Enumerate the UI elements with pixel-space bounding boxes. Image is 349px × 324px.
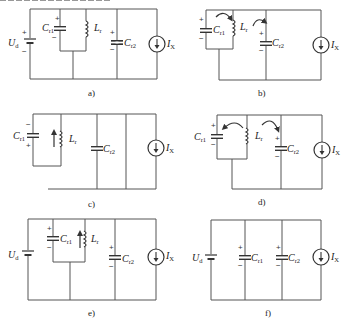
svg-text:+: + bbox=[109, 243, 114, 252]
svg-text:+: + bbox=[47, 224, 52, 233]
svg-text:−: − bbox=[259, 46, 264, 55]
svg-text:+: + bbox=[276, 243, 281, 252]
current-arrow-icon bbox=[262, 121, 278, 130]
panel-e: Ud + − Cr1 Lr + − Cr2 IX e) bbox=[8, 219, 174, 318]
caption-a: a) bbox=[88, 88, 95, 98]
label-ix: IX bbox=[166, 38, 175, 50]
panel-a: + − Ud + − Cr1 Lr + − Cr2 IX a) bbox=[8, 9, 175, 98]
svg-text:−: − bbox=[52, 33, 57, 42]
label-lr: Lr bbox=[90, 233, 100, 245]
current-arrow-icon bbox=[224, 123, 243, 128]
svg-text:−: − bbox=[275, 152, 280, 161]
label-ix: IX bbox=[330, 251, 339, 263]
label-ud: Ud bbox=[8, 37, 19, 49]
label-cr2: Cr2 bbox=[272, 37, 284, 49]
caption-e: e) bbox=[88, 308, 95, 318]
caption-c: c) bbox=[88, 199, 95, 209]
svg-text:−: − bbox=[199, 34, 204, 43]
label-cr2: Cr2 bbox=[124, 37, 136, 49]
svg-text:+: + bbox=[199, 15, 204, 24]
svg-text:+: + bbox=[22, 28, 27, 37]
current-source-icon bbox=[148, 249, 164, 265]
current-arrow-icon bbox=[253, 20, 265, 26]
label-ix: IX bbox=[331, 144, 340, 156]
svg-text:−: − bbox=[22, 47, 27, 56]
current-source-icon bbox=[314, 142, 330, 158]
label-cr2: Cr2 bbox=[122, 253, 134, 265]
current-source-icon bbox=[149, 36, 165, 52]
current-source-icon bbox=[313, 37, 329, 53]
label-lr: Lr bbox=[254, 130, 264, 142]
svg-text:−: − bbox=[47, 243, 52, 252]
svg-text:−: − bbox=[238, 261, 243, 270]
svg-text:−: − bbox=[276, 261, 281, 270]
panel-d: + − Cr1 Lr + − Cr2 IX d) bbox=[194, 115, 340, 207]
svg-text:+: + bbox=[275, 134, 280, 143]
label-lr: Lr bbox=[239, 21, 249, 33]
current-source-icon bbox=[148, 140, 164, 156]
current-source-icon bbox=[313, 249, 329, 265]
label-cr1: Cr1 bbox=[13, 130, 25, 142]
label-cr1: Cr1 bbox=[213, 24, 225, 36]
caption-d: d) bbox=[258, 197, 266, 207]
svg-text:−: − bbox=[211, 140, 216, 149]
label-ix: IX bbox=[165, 250, 174, 262]
circuit-figure: + − Ud + − Cr1 Lr + − Cr2 IX a) + bbox=[0, 0, 349, 324]
label-ix: IX bbox=[165, 142, 174, 154]
label-cr1: Cr1 bbox=[42, 22, 54, 34]
svg-text:+: + bbox=[259, 29, 264, 38]
svg-text:+: + bbox=[110, 28, 115, 37]
svg-text:−: − bbox=[26, 120, 31, 129]
panel-b: + − Cr1 Lr + − Cr2 IX b) bbox=[199, 10, 339, 98]
svg-text:+: + bbox=[238, 243, 243, 252]
label-cr1: Cr1 bbox=[251, 252, 263, 264]
label-cr1: Cr1 bbox=[60, 233, 72, 245]
label-cr2: Cr2 bbox=[103, 143, 115, 155]
label-cr2: Cr2 bbox=[287, 143, 299, 155]
panel-f: Ud + − Cr1 + − Cr2 IX f) bbox=[192, 220, 339, 318]
caption-f: f) bbox=[265, 308, 271, 318]
panel-c: − + Cr1 Lr Cr2 IX c) bbox=[13, 114, 174, 209]
label-cr2: Cr2 bbox=[288, 252, 300, 264]
caption-b: b) bbox=[258, 88, 266, 98]
svg-text:−: − bbox=[110, 45, 115, 54]
label-ud: Ud bbox=[8, 249, 19, 261]
svg-text:+: + bbox=[26, 141, 31, 150]
label-lr: Lr bbox=[93, 22, 103, 34]
svg-text:−: − bbox=[109, 262, 114, 271]
label-ud: Ud bbox=[192, 252, 203, 264]
svg-text:+: + bbox=[211, 121, 216, 130]
label-lr: Lr bbox=[68, 133, 78, 145]
svg-text:+: + bbox=[55, 14, 60, 23]
current-arrow-icon bbox=[216, 13, 231, 19]
label-cr1: Cr1 bbox=[194, 131, 206, 143]
label-ix: IX bbox=[330, 39, 339, 51]
